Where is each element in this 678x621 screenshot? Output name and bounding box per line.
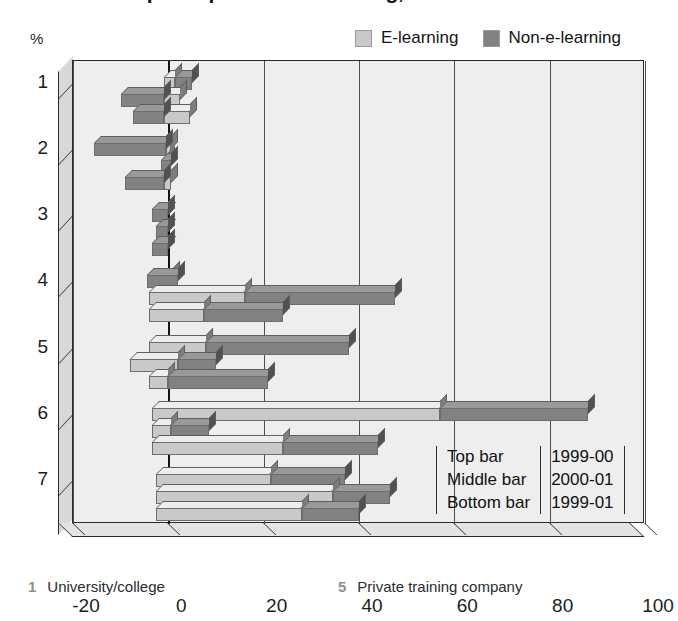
bar-segment — [149, 309, 204, 322]
bar-key-position: Bottom bar — [437, 492, 541, 515]
bar-side-face — [171, 163, 178, 183]
footnote-number: 1 — [28, 578, 36, 595]
bar-key-position: Middle bar — [437, 469, 541, 492]
bar-segment — [204, 309, 283, 322]
bar-period-key: Top bar 1999-00 Middle bar 2000-01 Botto… — [436, 446, 625, 514]
bar-face — [206, 342, 349, 355]
footnote-1: 1 University/college — [28, 578, 165, 595]
bar-top-face — [440, 401, 595, 408]
x-axis-label-40: 40 — [342, 595, 402, 617]
legend-item-non-e-learning: Non-e-learning — [483, 28, 621, 48]
bar-top-face — [149, 302, 211, 309]
bar-top-face — [302, 501, 366, 508]
bar-top-face — [94, 136, 173, 143]
footnote-number: 5 — [338, 578, 346, 595]
x-axis-label-20: 20 — [247, 595, 307, 617]
bar-top-face — [333, 484, 397, 491]
bar-side-face — [192, 63, 199, 83]
x-axis-label-100: 100 — [628, 595, 678, 617]
bar-key-position: Top bar — [437, 446, 541, 469]
x-tick-100 — [644, 523, 657, 535]
bar-segment — [149, 376, 168, 389]
y-axis-label-6: 6 — [20, 402, 48, 424]
bar-top-face — [271, 467, 352, 474]
footnote-label: University/college — [47, 578, 165, 595]
bar-face — [149, 309, 204, 322]
bar-side-face — [190, 97, 197, 117]
bar-segment — [152, 243, 169, 256]
x-axis-label-60: 60 — [437, 595, 497, 617]
y-axis-label-5: 5 — [20, 336, 48, 358]
bar-face — [156, 508, 301, 521]
bar-key-period: 2000-01 — [541, 469, 624, 492]
chart-legend: E-learning Non-e-learning — [355, 28, 621, 48]
legend-item-e-learning: E-learning — [355, 28, 459, 48]
bar-face — [440, 408, 588, 421]
page-title: Reasons for participation in e-learning,… — [22, 0, 642, 6]
bar-face — [125, 177, 163, 190]
y-axis-label-1: 1 — [20, 71, 48, 93]
bar-face — [152, 243, 169, 256]
bar-segment — [168, 376, 268, 389]
bar-top-face — [156, 467, 278, 474]
bar-segment — [206, 342, 349, 355]
bar-side-face — [349, 327, 356, 347]
bar-segment — [94, 143, 166, 156]
bar-segment — [152, 442, 283, 455]
bar-face — [133, 111, 164, 124]
bar-segment — [283, 442, 378, 455]
y-axis-label-3: 3 — [20, 203, 48, 225]
bar-top-face — [168, 369, 275, 376]
bar-segment — [302, 508, 359, 521]
bar-top-face — [149, 285, 252, 292]
bar-face — [204, 309, 283, 322]
gridline--20 — [73, 61, 74, 524]
bar-top-face — [204, 302, 290, 309]
bar-face — [94, 143, 166, 156]
bar-key-row: Top bar 1999-00 — [437, 446, 625, 469]
bar-segment — [125, 177, 163, 190]
bar-key-period: 1999-00 — [541, 446, 624, 469]
gridline-100 — [645, 61, 646, 524]
y-axis-label-7: 7 — [20, 468, 48, 490]
bar-segment — [156, 508, 301, 521]
bar-side-face — [345, 460, 352, 480]
bar-top-face — [130, 352, 185, 359]
bar-face — [152, 442, 283, 455]
x-axis-label--20: -20 — [56, 595, 116, 617]
bar-side-face — [390, 477, 397, 497]
bar-top-face — [206, 335, 356, 342]
bar-top-face — [149, 335, 213, 342]
bar-segment — [133, 111, 164, 124]
legend-swatch-e-learning — [355, 30, 372, 47]
bar-face — [168, 376, 268, 389]
bar-top-face — [156, 484, 340, 491]
bar-top-face — [245, 285, 402, 292]
bar-face — [283, 442, 378, 455]
y-axis-label-4: 4 — [20, 269, 48, 291]
bar-side-face — [395, 278, 402, 298]
bar-segment — [440, 408, 588, 421]
bar-side-face — [378, 427, 385, 447]
y-axis-unit-label: % — [30, 30, 43, 47]
x-axis-label-0: 0 — [151, 595, 211, 617]
bar-side-face — [268, 361, 275, 381]
bar-top-face — [283, 435, 386, 442]
footnote-5: 5 Private training company — [338, 578, 522, 595]
bar-top-face — [156, 501, 309, 508]
legend-label-e-learning: E-learning — [381, 28, 459, 48]
legend-label-non-e-learning: Non-e-learning — [509, 28, 621, 48]
y-axis-label-2: 2 — [20, 137, 48, 159]
bar-face — [302, 508, 359, 521]
x-axis-label-80: 80 — [533, 595, 593, 617]
legend-swatch-non-e-learning — [483, 30, 500, 47]
footnote-label: Private training company — [357, 578, 522, 595]
bar-side-face — [588, 393, 595, 413]
bar-top-face — [152, 435, 290, 442]
bar-key-period: 1999-01 — [541, 492, 624, 515]
bar-key-row: Bottom bar 1999-01 — [437, 492, 625, 515]
bar-top-face — [152, 401, 448, 408]
bar-face — [149, 376, 168, 389]
bar-key-row: Middle bar 2000-01 — [437, 469, 625, 492]
